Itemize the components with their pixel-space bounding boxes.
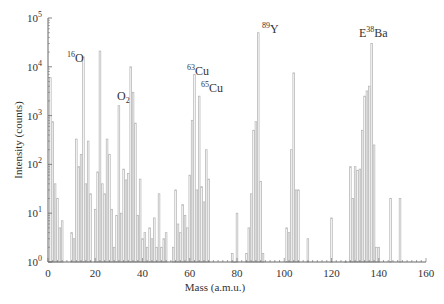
peak-label: 63Cu: [187, 63, 209, 78]
bar: [390, 199, 392, 262]
bar: [253, 130, 255, 262]
bar: [80, 154, 82, 262]
bar: [78, 167, 80, 262]
bar: [156, 247, 158, 262]
bar: [307, 239, 309, 262]
bar: [191, 120, 193, 262]
bar: [196, 190, 198, 262]
y-tick-label: 105: [27, 10, 42, 24]
bar: [291, 150, 293, 262]
bar: [262, 253, 264, 262]
bar: [184, 215, 186, 262]
bar: [94, 209, 96, 262]
bar: [257, 33, 259, 262]
bar: [364, 96, 366, 262]
bar: [146, 247, 148, 262]
bar: [73, 239, 75, 262]
peak-label: 16O: [67, 50, 84, 65]
bar: [208, 179, 210, 262]
bar: [194, 74, 196, 262]
bar: [288, 233, 290, 262]
bar: [120, 213, 122, 262]
bar: [144, 233, 146, 262]
bar: [260, 181, 262, 262]
peak-annotations: 16OO263Cu65Cu89YE38Ba: [67, 21, 388, 105]
bar: [373, 145, 375, 262]
bar: [236, 213, 238, 262]
bar: [57, 199, 59, 262]
bar: [158, 194, 160, 262]
bar: [354, 167, 356, 262]
bar: [97, 172, 99, 262]
bar: [52, 122, 54, 262]
bar: [331, 218, 333, 262]
bar: [59, 228, 61, 262]
peak-label: E38Ba: [359, 25, 388, 40]
bar: [130, 67, 132, 262]
x-tick-label: 120: [323, 267, 340, 279]
bar: [352, 199, 354, 262]
bar: [99, 51, 101, 262]
peak-label: 65Cu: [201, 80, 223, 95]
bar: [118, 106, 120, 262]
bar: [54, 184, 56, 262]
bar: [175, 190, 177, 262]
bar: [295, 190, 297, 262]
bar: [187, 228, 189, 262]
bar: [182, 205, 184, 262]
x-tick-label: 100: [276, 267, 293, 279]
bar: [286, 228, 288, 262]
bar: [83, 57, 85, 262]
bar: [113, 247, 115, 262]
x-tick-label: 160: [418, 267, 435, 279]
x-tick-label: 60: [184, 267, 196, 279]
x-axis-label: Mass (a.m.u.): [185, 281, 246, 294]
y-tick-label: 100: [27, 254, 42, 268]
bar: [104, 194, 106, 262]
x-tick-label: 0: [45, 267, 51, 279]
bar: [371, 44, 373, 262]
bar: [135, 123, 137, 262]
bar: [248, 228, 250, 262]
bar: [180, 233, 182, 262]
bar: [203, 202, 205, 262]
bar: [366, 91, 368, 262]
bar: [71, 233, 73, 262]
bar: [123, 169, 125, 262]
bar: [350, 167, 352, 262]
bar: [255, 122, 257, 262]
mass-spectrum-chart: 020406080100120140160100101102103104105 …: [0, 0, 444, 304]
bar: [376, 247, 378, 262]
bar: [165, 233, 167, 262]
bar: [205, 150, 207, 262]
bar: [163, 239, 165, 262]
bar: [198, 96, 200, 262]
bar: [102, 184, 104, 262]
x-tick-label: 140: [371, 267, 388, 279]
bar: [293, 73, 295, 262]
bar: [50, 78, 52, 262]
bar: [61, 221, 63, 262]
bar: [106, 139, 108, 262]
y-tick-label: 102: [27, 156, 42, 170]
y-tick-label: 101: [27, 205, 42, 219]
x-tick-label: 20: [90, 267, 102, 279]
bar: [177, 224, 179, 262]
bar: [116, 215, 118, 262]
bar: [189, 175, 191, 262]
bar: [137, 215, 139, 262]
bar: [132, 92, 134, 262]
bar: [172, 247, 174, 262]
bar: [139, 179, 141, 262]
peak-label: 89Y: [262, 21, 279, 36]
y-tick-label: 103: [27, 108, 42, 122]
bar: [361, 130, 363, 262]
bar: [85, 184, 87, 262]
bar: [109, 154, 111, 262]
y-axis-label: Intensity (counts): [12, 101, 25, 179]
bar: [250, 194, 252, 262]
bars: [50, 33, 401, 263]
bar: [201, 187, 203, 262]
bar: [154, 218, 156, 262]
x-tick-label: 40: [137, 267, 149, 279]
